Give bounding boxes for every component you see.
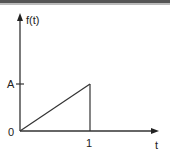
origin-label: 0 bbox=[8, 127, 14, 138]
y-axis-arrow-icon bbox=[17, 13, 23, 21]
y-tick-label: A bbox=[7, 79, 14, 90]
y-axis-label: f(t) bbox=[26, 15, 39, 26]
x-axis-arrow-icon bbox=[151, 128, 159, 134]
ramp-line bbox=[20, 84, 90, 131]
x-tick-label: 1 bbox=[86, 138, 92, 149]
x-axis-label: t bbox=[155, 140, 158, 151]
